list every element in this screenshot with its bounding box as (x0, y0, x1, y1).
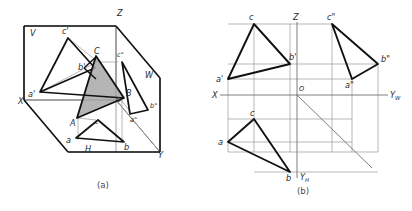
label-c-top: c (250, 108, 255, 118)
label-Y: Y (158, 150, 164, 160)
label-O: O (116, 96, 121, 104)
label-b-prime: b' (289, 52, 296, 62)
label-X: X (17, 96, 24, 106)
label-b-prime: b' (78, 62, 85, 72)
label-a-dblprime: a" (130, 116, 137, 124)
label-V: V (30, 28, 37, 38)
label-O: O (299, 85, 304, 93)
label-a: a (66, 135, 71, 145)
label-a-prime: a' (216, 74, 223, 84)
label-a-top: a (218, 137, 223, 147)
triangle-cdbl-bdbl-adbl (332, 24, 378, 79)
triangle-aprime-cprime-bprime (228, 24, 290, 79)
label-C: C (94, 46, 100, 56)
label-A: A (69, 118, 76, 128)
triangle-a-c-b (228, 119, 290, 172)
label-B: B (126, 88, 132, 98)
pictorial-diagram: X Y Z V H W O A B C a' b' c' a" b" c" a … (0, 0, 206, 211)
axes (220, 22, 388, 178)
label-H: H (85, 144, 91, 154)
triangle-horizontal-projection (228, 119, 290, 172)
label-Y-w-sub: W (395, 95, 401, 101)
caption-a: (a) (97, 180, 109, 190)
label-Y-w: YW (390, 90, 401, 101)
axis-45-bisector (297, 95, 372, 168)
label-c-dblprime: c" (117, 51, 124, 59)
triangle-a-b-c (76, 120, 124, 142)
triangle-horizontal-projection (76, 120, 124, 142)
label-X: X (211, 90, 218, 100)
triangle-profile-projection (332, 24, 378, 79)
caption-b: (b) (297, 186, 309, 196)
orthographic-diagram: X Z O YW YH c b' a' c" b" a" c a b (b) (206, 0, 412, 211)
panel-orthographic-view: X Z O YW YH c b' a' c" b" a" c a b (b) (206, 0, 412, 211)
label-a-prime: a' (28, 89, 35, 99)
border-h-left (24, 100, 68, 152)
label-c-front: c (249, 12, 254, 22)
label-W: W (145, 70, 154, 80)
label-b-dblprime: b" (150, 102, 157, 110)
label-a-dblprime: a" (345, 80, 354, 90)
label-c-dblprime: c" (327, 12, 335, 22)
label-Y-h: YH (300, 172, 309, 183)
plane-w-par (116, 26, 160, 152)
label-Y-h-sub: H (305, 177, 309, 183)
label-c-prime: c' (62, 26, 69, 36)
triangle-frontal-projection (228, 24, 290, 79)
ray-A-to-a (78, 118, 96, 120)
label-c: c (95, 118, 99, 126)
label-b-top: b (286, 173, 291, 183)
construction-grid (228, 24, 378, 172)
panel-pictorial-view: X Y Z V H W O A B C a' b' c' a" b" c" a … (0, 0, 206, 211)
label-Z: Z (116, 8, 123, 18)
label-b: b (124, 142, 129, 152)
figure-root: X Y Z V H W O A B C a' b' c' a" b" c" a … (0, 0, 412, 211)
label-b-dblprime: b" (381, 54, 390, 64)
label-Z: Z (292, 12, 299, 22)
